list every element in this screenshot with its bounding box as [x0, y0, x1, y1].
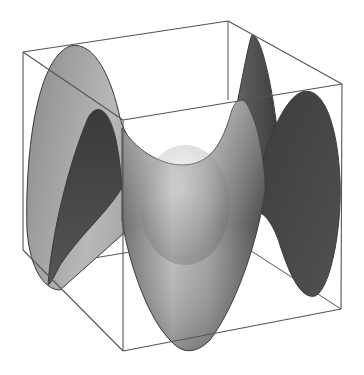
box-edge-right-vertical [341, 84, 342, 309]
surface-plot [0, 0, 364, 375]
figure-canvas [0, 0, 364, 375]
box-edge-top-back [23, 21, 228, 52]
surface-highlight [140, 145, 230, 265]
